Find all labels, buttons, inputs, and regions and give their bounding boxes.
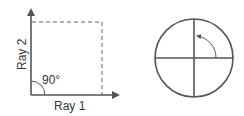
- right-angle-diagrams: 90° Ray 1 Ray 2: [0, 0, 244, 116]
- ray-1-label: Ray 1: [54, 99, 86, 113]
- circle-figure: [155, 19, 233, 97]
- ray-2-label: Ray 2: [15, 38, 29, 70]
- angle-label: 90°: [42, 73, 60, 87]
- rotation-arrow-icon: [197, 36, 216, 58]
